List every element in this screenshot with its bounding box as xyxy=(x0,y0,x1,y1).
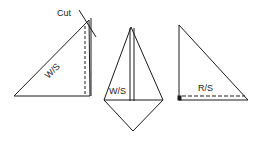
figure-1 xyxy=(14,10,96,96)
figure-2-side-label: W/S xyxy=(109,86,126,96)
folded-corner xyxy=(178,96,181,100)
triangle-outline xyxy=(14,20,90,96)
triangle-outline xyxy=(179,25,248,100)
figure-3-side-label: R/S xyxy=(198,83,213,93)
cut-mark xyxy=(79,10,96,37)
figure-2 xyxy=(104,27,163,131)
cut-label: Cut xyxy=(57,8,72,18)
folding-diagram: Cut W/S W/S R/S xyxy=(0,0,259,147)
